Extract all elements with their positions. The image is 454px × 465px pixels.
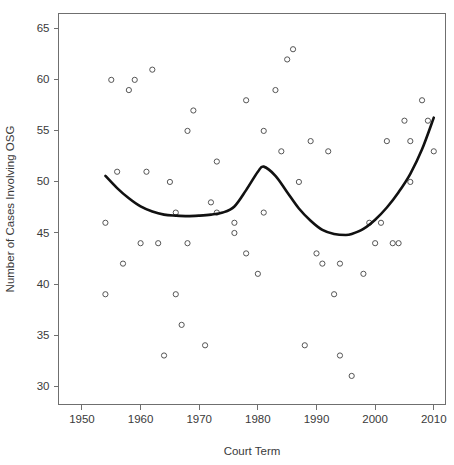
- data-point: [115, 169, 120, 174]
- data-point: [308, 139, 313, 144]
- data-point: [103, 220, 108, 225]
- data-point: [285, 57, 290, 62]
- data-point: [408, 139, 413, 144]
- x-axis-title: Court Term: [224, 445, 281, 457]
- data-point: [255, 271, 260, 276]
- data-point: [185, 241, 190, 246]
- data-point: [349, 373, 354, 378]
- y-tick-label: 65: [37, 22, 50, 34]
- data-point: [185, 128, 190, 133]
- data-point: [156, 241, 161, 246]
- data-point: [208, 200, 213, 205]
- data-point: [290, 47, 295, 52]
- data-point: [296, 179, 301, 184]
- x-tick-label: 1980: [245, 413, 271, 425]
- data-point: [244, 251, 249, 256]
- data-point: [126, 87, 131, 92]
- x-tick-label: 1950: [69, 413, 95, 425]
- data-point: [337, 353, 342, 358]
- data-point: [232, 230, 237, 235]
- data-point: [103, 292, 108, 297]
- data-point: [273, 87, 278, 92]
- y-tick-label: 50: [37, 175, 50, 187]
- data-point: [390, 241, 395, 246]
- x-tick-label: 2000: [362, 413, 388, 425]
- data-point: [408, 179, 413, 184]
- data-point: [320, 261, 325, 266]
- data-point: [302, 343, 307, 348]
- y-tick-label: 30: [37, 380, 50, 392]
- plot-canvas: 3035404550556065 19501960197019801990200…: [0, 0, 454, 465]
- y-tick-label: 35: [37, 329, 50, 341]
- data-point: [150, 67, 155, 72]
- y-axis-title: Number of Cases Involving OSG: [4, 126, 16, 293]
- y-tick-label: 60: [37, 73, 50, 85]
- data-point: [378, 220, 383, 225]
- data-point: [244, 98, 249, 103]
- data-point: [279, 149, 284, 154]
- data-point: [314, 251, 319, 256]
- trend-line-curve: [105, 118, 433, 235]
- data-point: [167, 179, 172, 184]
- data-point: [261, 210, 266, 215]
- y-tick-label: 40: [37, 278, 50, 290]
- data-point: [179, 322, 184, 327]
- data-point: [384, 139, 389, 144]
- data-point: [402, 118, 407, 123]
- data-point: [109, 77, 114, 82]
- data-point: [396, 241, 401, 246]
- data-point: [337, 261, 342, 266]
- data-point: [331, 292, 336, 297]
- x-tick-label: 2010: [421, 413, 447, 425]
- plot-frame: [59, 14, 446, 405]
- data-point: [326, 149, 331, 154]
- data-point: [120, 261, 125, 266]
- data-point: [144, 169, 149, 174]
- data-point: [232, 220, 237, 225]
- data-point: [373, 241, 378, 246]
- data-point: [138, 241, 143, 246]
- data-point: [431, 149, 436, 154]
- y-tick-label: 45: [37, 227, 50, 239]
- x-axis-ticks: 1950196019701980199020002010: [69, 405, 446, 425]
- x-tick-label: 1970: [186, 413, 212, 425]
- data-point: [419, 98, 424, 103]
- data-point: [132, 77, 137, 82]
- x-tick-label: 1960: [128, 413, 154, 425]
- x-tick-label: 1990: [304, 413, 330, 425]
- data-point: [425, 118, 430, 123]
- y-axis-ticks: 3035404550556065: [37, 22, 59, 391]
- y-tick-label: 55: [37, 124, 50, 136]
- scatter-plot-figure: 3035404550556065 19501960197019801990200…: [0, 0, 454, 465]
- data-point: [261, 128, 266, 133]
- data-point: [173, 292, 178, 297]
- data-point: [202, 343, 207, 348]
- data-point: [161, 353, 166, 358]
- data-point: [191, 108, 196, 113]
- data-point: [214, 159, 219, 164]
- data-point: [361, 271, 366, 276]
